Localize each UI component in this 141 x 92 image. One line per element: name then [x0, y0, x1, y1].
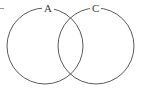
set-c-circle [58, 8, 134, 84]
set-a-circle [7, 8, 83, 84]
set-c-label: C [90, 3, 101, 14]
venn-diagram-canvas [0, 0, 141, 92]
edge-dash-artifact [0, 8, 4, 9]
venn-diagram-figure: A C [0, 0, 141, 92]
set-a-label: A [42, 3, 54, 14]
